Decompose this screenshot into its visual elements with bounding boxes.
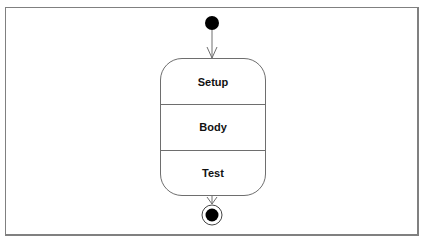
state-compartment-body: Body — [161, 104, 265, 149]
final-node-inner-icon — [206, 209, 219, 222]
initial-node-icon — [205, 16, 219, 30]
state-compartment-test: Test — [161, 150, 265, 195]
state-compartment-setup: Setup — [161, 59, 265, 104]
state-node[interactable]: Setup Body Test — [160, 58, 266, 196]
